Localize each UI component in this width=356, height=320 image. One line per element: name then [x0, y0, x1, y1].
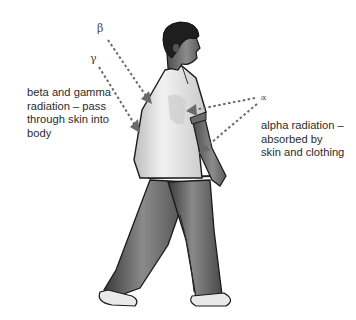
gamma-arrowhead-icon [130, 119, 140, 133]
head [163, 22, 200, 70]
gamma-symbol: γ [90, 53, 97, 65]
walking-person-illustration [0, 0, 356, 320]
alpha-caption: alpha radiation – absorbed by skin and c… [261, 119, 356, 160]
beta-gamma-caption: beta and gamma radiation – pass through … [27, 86, 127, 140]
alpha-symbol: ∝ [260, 92, 267, 104]
alpha-ray-line-lower [205, 104, 257, 148]
beta-symbol: β [97, 23, 103, 35]
radiation-diagram: β γ ∝ beta and gamma radiation – pass th… [0, 0, 356, 320]
front-leg [168, 180, 231, 306]
